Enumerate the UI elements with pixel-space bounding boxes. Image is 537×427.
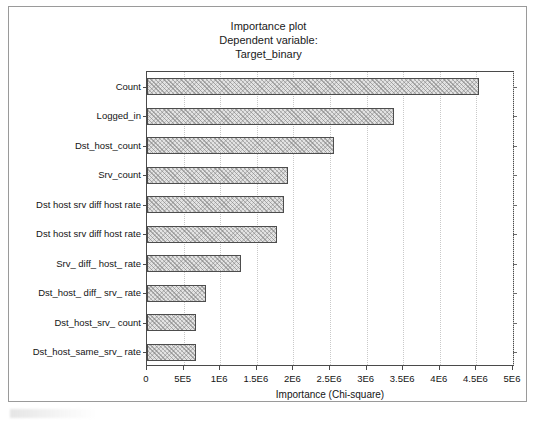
right-tick [513,87,517,88]
bar-row [147,279,206,309]
x-tick [402,366,403,370]
x-tick [512,366,513,370]
plot-area [146,71,514,366]
x-tick [256,366,257,370]
y-tick [143,352,147,353]
y-axis-label: Srv_ diff_ host_ rate [56,257,141,268]
y-axis-label: Logged_in [97,110,141,121]
y-axis-labels: CountLogged_inDst_host_countSrv_countDst… [9,71,141,366]
bar [147,137,334,154]
title-line-1: Importance plot [9,19,528,33]
bar [147,314,196,331]
bar-row [147,338,196,368]
x-tick-label: 2.5E6 [317,373,342,384]
right-tick [513,264,517,265]
y-tick [143,323,147,324]
bar [147,255,241,272]
bar-row [147,102,394,132]
bar [147,196,284,213]
x-tick-label: 3.5E6 [390,373,415,384]
x-tick-label: 1.5E6 [243,373,268,384]
x-tick-label: 2E6 [284,373,301,384]
bar-row [147,308,196,338]
bar [147,226,277,243]
right-tick [513,116,517,117]
title-line-3: Target_binary [9,47,528,61]
x-tick [329,366,330,370]
x-tick [475,366,476,370]
right-tick [513,146,517,147]
x-tick-label: 5E5 [174,373,191,384]
right-tick [513,323,517,324]
x-tick-label: 4.5E6 [463,373,488,384]
x-tick [219,366,220,370]
right-tick [513,205,517,206]
x-tick-label: 3E6 [357,373,374,384]
x-tick-marks [146,366,514,372]
x-tick-label: 5E6 [504,373,521,384]
x-tick-label: 0 [143,373,148,384]
y-tick [143,293,147,294]
right-tick [513,352,517,353]
x-tick [146,366,147,370]
bar [147,285,206,302]
y-tick [143,175,147,176]
x-tick-label: 1E6 [211,373,228,384]
bars [147,72,513,365]
bar [147,78,479,95]
chart-title: Importance plot Dependent variable: Targ… [9,19,528,61]
y-tick [143,205,147,206]
y-axis-label: Count [116,80,141,91]
bar [147,344,196,361]
title-line-2: Dependent variable: [9,33,528,47]
bar-row [147,249,241,279]
y-axis-label: Dst_host_srv_ count [54,316,141,327]
y-axis-label: Dst host srv diff host rate [36,228,141,239]
bar [147,108,394,125]
y-axis-label: Dst_host_count [75,139,141,150]
x-axis-title: Importance (Chi-square) [146,389,514,400]
page-frame: Importance plot Dependent variable: Targ… [8,6,527,402]
bar-row [147,161,288,191]
bar-row [147,72,479,102]
y-tick [143,87,147,88]
bar-row [147,190,284,220]
right-tick [513,293,517,294]
y-tick [143,146,147,147]
x-tick [292,366,293,370]
x-axis-tick-labels: 05E51E61.5E62E62.5E63E63.5E64E64.5E65E6 [146,373,514,387]
bar-row [147,131,334,161]
y-tick [143,234,147,235]
y-axis-label: Dst_host_ diff_ srv_ rate [38,287,141,298]
x-tick [439,366,440,370]
bar [147,167,288,184]
y-tick [143,264,147,265]
scan-artifact [10,409,96,418]
right-tick [513,175,517,176]
right-tick [513,234,517,235]
y-axis-label: Dst_host_same_srv_ rate [33,346,141,357]
y-axis-label: Dst host srv diff host rate [36,198,141,209]
bar-row [147,220,277,250]
x-tick [183,366,184,370]
x-tick [366,366,367,370]
y-axis-label: Srv_count [98,169,141,180]
x-tick-label: 4E6 [430,373,447,384]
y-tick [143,116,147,117]
